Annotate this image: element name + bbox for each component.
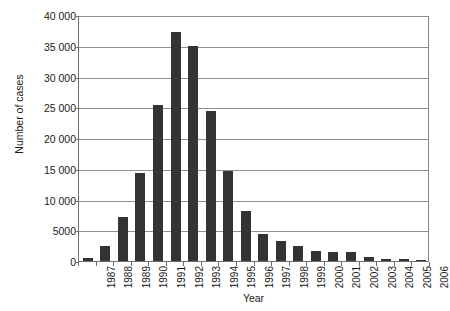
bar-slot: [79, 16, 97, 261]
bar: [135, 173, 145, 261]
bar-slot: [237, 16, 255, 261]
bar-slot: [377, 16, 395, 261]
y-axis-tick-label: 0: [22, 257, 76, 267]
bar: [206, 111, 216, 261]
bar: [346, 252, 356, 261]
bar-slot: [97, 16, 115, 261]
bar-slot: [290, 16, 308, 261]
bar-slot: [395, 16, 413, 261]
x-axis-title: Year: [78, 292, 429, 304]
bar-slot: [360, 16, 378, 261]
y-axis-tick-label: 15 000: [22, 165, 76, 175]
bar-slot: [132, 16, 150, 261]
bar-slot: [149, 16, 167, 261]
bar: [381, 259, 391, 261]
bar-slot: [219, 16, 237, 261]
y-axis-tick-label: 10 000: [22, 196, 76, 206]
bar: [118, 217, 128, 261]
bar: [188, 46, 198, 261]
bar-slot: [184, 16, 202, 261]
bar-slot: [412, 16, 430, 261]
y-axis-tick-label: 30 000: [22, 73, 76, 83]
y-axis-tick-label: 35 000: [22, 42, 76, 52]
y-axis-tick-label: 25 000: [22, 103, 76, 113]
bar: [364, 257, 374, 261]
bar-slot: [325, 16, 343, 261]
bar-slot: [342, 16, 360, 261]
bar: [171, 32, 181, 261]
bar-slot: [307, 16, 325, 261]
bar-slot: [202, 16, 220, 261]
y-axis-tick-labels: 0500010 00015 00020 00025 00030 00035 00…: [22, 0, 76, 311]
bar-slot: [167, 16, 185, 261]
bar: [223, 171, 233, 261]
bar: [83, 258, 93, 261]
bar: [399, 259, 409, 261]
y-axis-tick-label: 20 000: [22, 134, 76, 144]
bar-series: [79, 16, 428, 261]
plot-area: [78, 16, 429, 262]
bar: [153, 105, 163, 261]
bar: [276, 241, 286, 261]
bar: [241, 211, 251, 261]
bar: [311, 251, 321, 261]
x-axis-tick-label: 2006: [440, 266, 450, 306]
bar-slot: [255, 16, 273, 261]
bar-slot: [114, 16, 132, 261]
y-axis-tick-label: 5000: [22, 226, 76, 236]
y-axis-tick-label: 40 000: [22, 11, 76, 21]
bar: [258, 234, 268, 261]
bar: [416, 260, 426, 261]
bar: [328, 252, 338, 261]
bar: [100, 246, 110, 261]
bar-slot: [272, 16, 290, 261]
bar: [293, 246, 303, 261]
